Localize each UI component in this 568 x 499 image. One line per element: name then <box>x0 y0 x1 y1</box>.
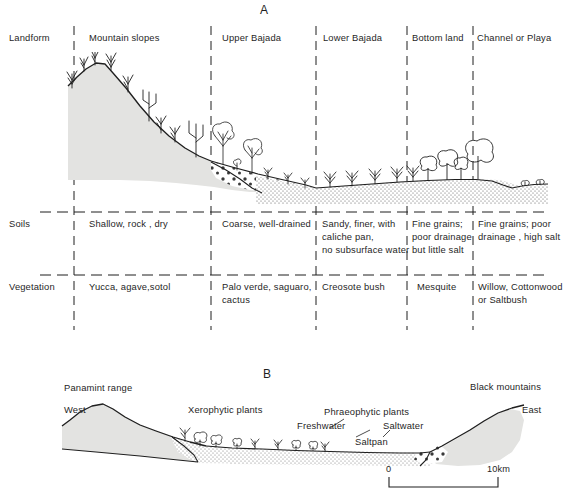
mesquite-bush <box>292 440 301 450</box>
vegetation-mountain-slopes-line1: Yucca, agave,sotol <box>89 281 170 294</box>
bottom-land-vegetation-group <box>420 139 493 181</box>
soils-lower-bajada-line1: Sandy, finer, with <box>322 218 395 231</box>
bajada-alluvium <box>256 176 548 204</box>
landform-bottom-land: Bottom land <box>412 32 464 45</box>
row-label-vegetation: Vegetation <box>9 281 55 294</box>
saltwater-label: Saltwater <box>383 420 423 433</box>
panel-b-west-label: West <box>64 404 86 417</box>
mesquite-bush <box>211 435 222 447</box>
vegetation-upper-bajada-line2: cactus <box>222 294 250 307</box>
mesquite-tree <box>420 156 437 181</box>
phreatophytic-plants-label: Phraeophytic plants <box>324 406 409 419</box>
creosote-bush <box>407 166 419 181</box>
vegetation-upper-bajada-line1: Palo verde, saguaro, <box>222 281 312 294</box>
cottonwood-tree <box>466 139 494 179</box>
desert-shrub <box>251 439 259 449</box>
soils-bottom-land-line3: but little salt <box>412 244 464 257</box>
desert-shrub <box>274 440 282 450</box>
panel-b-letter: B <box>263 368 272 381</box>
soils-channel-or-playa-line1: Fine grains; poor <box>478 218 551 231</box>
panamint-range-label: Panamint range <box>64 382 132 395</box>
palo-verde-tree <box>243 139 262 174</box>
soils-lower-bajada-line2: caliche pan, <box>322 231 374 244</box>
black-mountains-label: Black mountains <box>470 381 541 394</box>
mesquite-bush <box>309 441 318 450</box>
xerophytic-plants-label: Xerophytic plants <box>188 404 262 417</box>
row-label-landform: Landform <box>9 32 50 45</box>
soils-bottom-land-line2: poor drainage <box>412 231 472 244</box>
saltpan-fill <box>230 448 430 466</box>
panel-b-phreatophyte-group <box>321 442 329 452</box>
mesquite-tree <box>454 157 468 179</box>
vegetation-lower-bajada-line1: Creosote bush <box>322 281 385 294</box>
landform-channel-or-playa: Channel or Playa <box>477 32 551 45</box>
figure-root: A B Landform Soils Vegetation Mountain s… <box>0 0 568 499</box>
scale-tick-label-right: 10km <box>487 463 510 476</box>
scale-bar <box>389 477 498 487</box>
vegetation-channel-or-playa-line2: or Saltbush <box>478 294 527 307</box>
scale-tick-label-left: 0 <box>386 463 391 476</box>
creosote-bush <box>391 167 403 182</box>
row-label-soils: Soils <box>9 218 30 231</box>
creosote-bush <box>324 172 336 187</box>
creosote-bush <box>369 169 381 184</box>
soils-bottom-land-line1: Fine grains; <box>412 218 463 231</box>
soils-upper-bajada-line1: Coarse, well-drained <box>222 218 311 231</box>
landform-mountain-slopes: Mountain slopes <box>89 32 160 45</box>
mesquite-bush <box>233 438 242 448</box>
landform-upper-bajada: Upper Bajada <box>222 32 281 45</box>
panel-a-letter: A <box>260 4 269 17</box>
vegetation-bottom-land-line1: Mesquite <box>417 281 456 294</box>
landform-lower-bajada: Lower Bajada <box>323 32 382 45</box>
phreatophyte-shrub <box>321 442 329 452</box>
soils-lower-bajada-line3: no subsurface water <box>322 244 409 257</box>
palo-verde-tree <box>213 122 235 164</box>
soils-channel-or-playa-line2: drainage , high salt <box>478 231 560 244</box>
vegetation-channel-or-playa-line1: Willow, Cottonwood <box>478 281 563 294</box>
creosote-bush <box>346 171 358 186</box>
panel-a-cross-section <box>67 50 548 204</box>
freshwater-label: Freshwater <box>297 420 345 433</box>
soils-mountain-slopes-line1: Shallow, rock , dry <box>89 218 168 231</box>
panel-b-east-label: East <box>522 404 541 417</box>
panel-b-cross-section <box>62 404 524 466</box>
saltpan-label: Saltpan <box>355 436 388 449</box>
diagram-canvas <box>0 0 568 499</box>
